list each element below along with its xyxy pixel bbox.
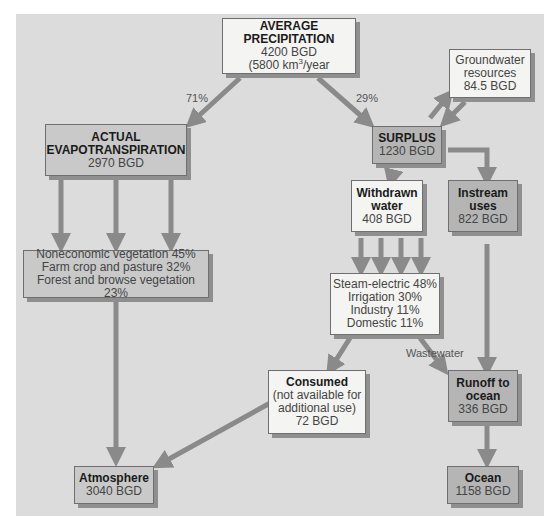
precipitation-sub: (5800 km3/year — [248, 59, 329, 72]
runoff-value: 336 BGD — [458, 403, 507, 416]
precipitation-title: AVERAGE PRECIPITATION — [223, 20, 355, 46]
consumed-value: 72 BGD — [296, 415, 339, 428]
uses-box: Steam-electric 48% Irrigation 30% Indust… — [330, 273, 440, 335]
withdrawn-title-1: Withdrawn — [356, 187, 417, 200]
instream-value: 822 BGD — [458, 213, 507, 226]
surplus-value: 1230 BGD — [379, 145, 435, 158]
atmosphere-value: 3040 BGD — [86, 485, 142, 498]
groundwater-value: 84.5 BGD — [464, 80, 517, 93]
pct-evap-label: 71% — [186, 92, 208, 104]
vegetation-line3: Forest and browse vegetation 23% — [24, 274, 208, 300]
ocean-value: 1158 BGD — [455, 485, 510, 498]
atmosphere-box: Atmosphere 3040 BGD — [74, 466, 154, 504]
instream-box: Instream uses 822 BGD — [448, 180, 518, 232]
runoff-title-1: Runoff to — [456, 377, 509, 390]
evap-value: 2970 BGD — [88, 157, 144, 170]
instream-title-2: uses — [469, 200, 496, 213]
ocean-box: Ocean 1158 BGD — [447, 466, 519, 504]
evap-title-2: EVAPOTRANSPIRATION — [47, 144, 186, 157]
surplus-box: SURPLUS 1230 BGD — [372, 126, 442, 164]
runoff-box: Runoff to ocean 336 BGD — [448, 370, 518, 422]
withdrawn-value: 408 BGD — [362, 213, 411, 226]
precipitation-box: AVERAGE PRECIPITATION 4200 BGD (5800 km3… — [222, 18, 356, 74]
evap-title-1: ACTUAL — [91, 131, 140, 144]
consumed-box: Consumed (not available for additional u… — [268, 370, 366, 434]
pct-surplus-label: 29% — [356, 92, 378, 104]
vegetation-box: Noneconomic vegetation 45% Farm crop and… — [23, 250, 209, 298]
wastewater-label: Wastewater — [406, 347, 464, 359]
runoff-title-2: ocean — [466, 390, 501, 403]
groundwater-box: Groundwater resources 84.5 BGD — [449, 49, 531, 98]
withdrawn-box: Withdrawn water 408 BGD — [351, 180, 423, 232]
instream-title-1: Instream — [458, 187, 508, 200]
evapotranspiration-box: ACTUAL EVAPOTRANSPIRATION 2970 BGD — [45, 124, 187, 176]
withdrawn-title-2: water — [371, 200, 402, 213]
uses-line4: Domestic 11% — [347, 317, 423, 330]
